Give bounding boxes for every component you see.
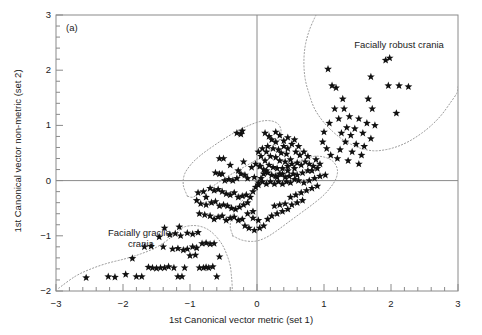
data-point-star <box>194 228 202 235</box>
data-point-star <box>325 119 333 126</box>
data-point-star <box>392 109 400 116</box>
data-point-star <box>249 207 257 214</box>
y-tick-label: −2 <box>29 285 51 296</box>
data-point-star <box>340 105 348 112</box>
data-point-star <box>122 270 130 277</box>
data-point-star <box>363 119 371 126</box>
data-point-star <box>327 151 335 158</box>
y-tick-label: 0 <box>29 175 51 186</box>
annotation-gracile-line2: crania <box>128 238 154 249</box>
data-point-star <box>346 112 354 119</box>
data-point-star <box>358 151 366 158</box>
data-point-star <box>352 140 360 147</box>
x-tick-label: 0 <box>245 298 269 309</box>
data-point-star <box>189 230 197 237</box>
data-point-star <box>323 144 331 151</box>
data-point-star <box>395 82 403 89</box>
data-point-star <box>371 121 379 128</box>
data-point-star <box>183 229 191 236</box>
x-tick-label: 2 <box>379 298 403 309</box>
data-point-star <box>264 142 272 149</box>
annotation-gracile-line1: Facially gracile <box>108 227 171 238</box>
data-point-star <box>240 158 248 165</box>
data-point-star <box>324 65 332 72</box>
data-point-star <box>276 201 284 208</box>
data-point-star <box>316 172 324 179</box>
data-point-star <box>271 202 279 209</box>
data-point-star <box>249 214 257 221</box>
data-point-star <box>364 95 372 102</box>
x-tick-label: −2 <box>111 298 135 309</box>
data-points-group-1 <box>193 127 270 224</box>
data-point-star <box>355 115 363 122</box>
data-point-star <box>405 83 413 90</box>
data-point-star <box>368 105 376 112</box>
scatter-figure: (a) 1st Canonical vector metric (set 1) … <box>0 0 482 335</box>
data-point-star <box>111 273 119 280</box>
plot-content <box>59 15 458 291</box>
data-point-star <box>299 196 307 203</box>
data-point-star <box>320 128 328 135</box>
data-point-star <box>367 73 375 80</box>
data-point-star <box>351 125 359 132</box>
data-point-star <box>201 211 209 218</box>
x-tick-label: 3 <box>446 298 470 309</box>
data-point-star <box>186 252 194 259</box>
data-point-star <box>313 182 321 189</box>
data-point-star <box>336 146 344 153</box>
data-point-star <box>359 129 367 136</box>
x-tick-label: 1 <box>312 298 336 309</box>
data-point-star <box>344 157 352 164</box>
annotation-robust: Facially robust crania <box>354 39 444 50</box>
data-point-star <box>191 251 199 258</box>
data-point-star <box>348 148 356 155</box>
y-axis-label: 1st Canonical vector non-metric (set 2) <box>12 6 23 296</box>
data-point-star <box>174 244 182 251</box>
group-envelope-3 <box>304 15 458 151</box>
y-tick-label: 1 <box>29 119 51 130</box>
data-point-star <box>355 160 363 167</box>
data-point-star <box>319 138 327 145</box>
data-point-star <box>226 161 234 168</box>
data-point-star <box>181 264 189 271</box>
data-point-star <box>384 82 392 89</box>
x-tick-label: −3 <box>44 298 68 309</box>
data-point-star <box>321 171 329 178</box>
data-point-star <box>213 273 221 280</box>
data-point-star <box>347 131 355 138</box>
data-point-star <box>82 274 90 281</box>
data-point-star <box>194 189 202 196</box>
data-point-star <box>367 135 375 142</box>
data-point-star <box>331 105 339 112</box>
data-point-star <box>360 142 368 149</box>
y-tick-label: 3 <box>29 9 51 20</box>
data-point-star <box>343 124 351 131</box>
data-point-star <box>334 154 342 161</box>
data-point-star <box>159 243 167 250</box>
x-axis-label: 1st Canonical vector metric (set 1) <box>0 314 482 325</box>
data-point-star <box>195 210 203 217</box>
x-tick-label: −1 <box>178 298 202 309</box>
data-point-star <box>339 95 347 102</box>
data-points-group-3 <box>319 54 413 167</box>
data-point-star <box>175 223 183 230</box>
data-point-star <box>312 156 320 163</box>
y-tick-label: −1 <box>29 230 51 241</box>
data-point-star <box>338 129 346 136</box>
data-point-star <box>202 193 210 200</box>
y-tick-label: 2 <box>29 64 51 75</box>
data-point-star <box>169 245 177 252</box>
data-point-star <box>335 115 343 122</box>
data-point-star <box>216 253 224 260</box>
data-point-star <box>104 273 112 280</box>
data-point-star <box>193 244 201 251</box>
panel-label: (a) <box>66 22 78 33</box>
data-point-star <box>170 264 178 271</box>
data-point-star <box>138 273 146 280</box>
